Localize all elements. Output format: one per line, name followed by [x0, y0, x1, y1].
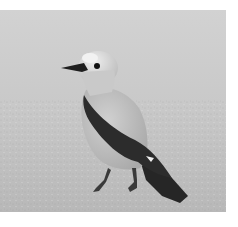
- photo-canvas: [0, 10, 226, 212]
- bird-photo: [0, 10, 226, 212]
- bird-eye: [94, 63, 100, 69]
- bird-forehead: [82, 53, 98, 63]
